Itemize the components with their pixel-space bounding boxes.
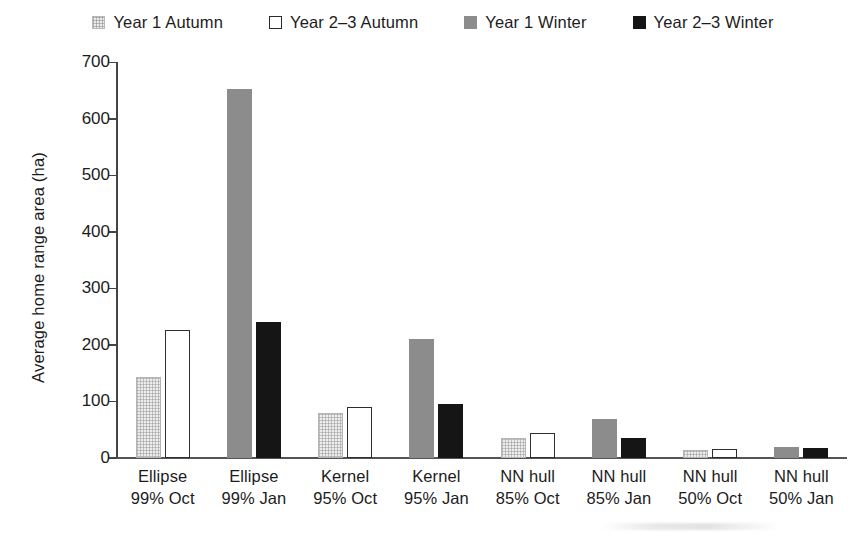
bar-chart: Year 1 Autumn Year 2–3 Autumn Year 1 Win… (0, 0, 866, 538)
x-label-line2: 95% Jan (391, 488, 482, 510)
x-label-line2: 85% Jan (573, 488, 664, 510)
bar-group-ellipse-99-jan (208, 62, 299, 458)
legend-label-year-2-3-winter: Year 2–3 Winter (654, 14, 774, 31)
x-label-line2: 50% Oct (665, 488, 756, 510)
y-tick-500 (109, 175, 117, 177)
x-label-line2: 99% Jan (208, 488, 299, 510)
bar-year-2-3-winter (256, 322, 281, 458)
bar-year-2-3-autumn (530, 433, 555, 458)
x-label-ellipse-99-oct: Ellipse 99% Oct (117, 466, 208, 510)
x-label-line2: 99% Oct (117, 488, 208, 510)
x-label-nn-hull-50-oct: NN hull 50% Oct (665, 466, 756, 510)
x-label-line2: 95% Oct (300, 488, 391, 510)
x-label-kernel-95-oct: Kernel 95% Oct (300, 466, 391, 510)
y-tick-200 (109, 344, 117, 346)
x-label-nn-hull-85-oct: NN hull 85% Oct (482, 466, 573, 510)
x-label-line1: Ellipse (208, 466, 299, 488)
bar-year-2-3-autumn (347, 407, 372, 458)
bar-year-1-autumn (683, 450, 708, 458)
bar-year-2-3-autumn (165, 330, 190, 458)
bar-year-2-3-winter (438, 404, 463, 458)
x-label-nn-hull-85-jan: NN hull 85% Jan (573, 466, 664, 510)
chart-legend: Year 1 Autumn Year 2–3 Autumn Year 1 Win… (0, 14, 866, 31)
x-label-nn-hull-50-jan: NN hull 50% Jan (756, 466, 847, 510)
y-tick-label-600: 600 (10, 109, 110, 129)
legend-label-year-1-winter: Year 1 Winter (485, 14, 586, 31)
x-label-ellipse-99-jan: Ellipse 99% Jan (208, 466, 299, 510)
bar-group-nn-hull-85-oct (482, 62, 573, 458)
bar-group-kernel-95-oct (300, 62, 391, 458)
x-label-line1: NN hull (665, 466, 756, 488)
y-tick-300 (109, 288, 117, 290)
x-label-line1: NN hull (482, 466, 573, 488)
bar-year-1-autumn (318, 413, 343, 458)
bar-year-1-winter (774, 447, 799, 458)
x-label-line2: 50% Jan (756, 488, 847, 510)
legend-swatch-icon-year-2-3-autumn (269, 16, 282, 29)
bar-group-nn-hull-85-jan (573, 62, 664, 458)
legend-item-year-2-3-winter: Year 2–3 Winter (633, 14, 774, 31)
bar-year-2-3-winter (803, 448, 828, 458)
y-tick-label-100: 100 (10, 391, 110, 411)
y-tick-label-200: 200 (10, 335, 110, 355)
y-tick-label-700: 700 (10, 52, 110, 72)
y-tick-label-400: 400 (10, 222, 110, 242)
bar-year-2-3-autumn (712, 449, 737, 458)
bar-year-1-autumn (501, 438, 526, 458)
legend-label-year-2-3-autumn: Year 2–3 Autumn (290, 14, 418, 31)
y-tick-label-300: 300 (10, 278, 110, 298)
page-scan-artifact (600, 523, 780, 530)
x-label-line2: 85% Oct (482, 488, 573, 510)
legend-swatch-icon-year-1-winter (464, 16, 477, 29)
x-label-line1: NN hull (756, 466, 847, 488)
bar-year-1-winter (592, 419, 617, 458)
x-label-kernel-95-jan: Kernel 95% Jan (391, 466, 482, 510)
x-axis-labels: Ellipse 99% Oct Ellipse 99% Jan Kernel 9… (117, 466, 847, 526)
bar-group-nn-hull-50-jan (756, 62, 847, 458)
legend-item-year-1-winter: Year 1 Winter (464, 14, 586, 31)
y-axis-ticks: 700 600 500 400 300 200 100 0 (0, 0, 110, 538)
x-label-line1: NN hull (573, 466, 664, 488)
y-tick-label-500: 500 (10, 165, 110, 185)
legend-label-year-1-autumn: Year 1 Autumn (113, 14, 223, 31)
bar-group-kernel-95-jan (391, 62, 482, 458)
y-tick-600 (109, 118, 117, 120)
legend-swatch-icon-year-2-3-winter (633, 16, 646, 29)
legend-item-year-1-autumn: Year 1 Autumn (92, 14, 223, 31)
bar-group-ellipse-99-oct (117, 62, 208, 458)
bar-year-1-winter (409, 339, 434, 458)
y-tick-700 (109, 62, 117, 64)
bar-year-2-3-winter (621, 438, 646, 458)
x-label-line1: Ellipse (117, 466, 208, 488)
bar-group-nn-hull-50-oct (665, 62, 756, 458)
y-tick-100 (109, 401, 117, 403)
bar-year-1-winter (227, 89, 252, 458)
bar-year-1-autumn (136, 377, 161, 458)
y-tick-0 (109, 457, 117, 459)
x-label-line1: Kernel (391, 466, 482, 488)
legend-item-year-2-3-autumn: Year 2–3 Autumn (269, 14, 418, 31)
plot-area (117, 62, 847, 458)
y-tick-label-0: 0 (10, 448, 110, 468)
y-tick-400 (109, 231, 117, 233)
x-label-line1: Kernel (300, 466, 391, 488)
